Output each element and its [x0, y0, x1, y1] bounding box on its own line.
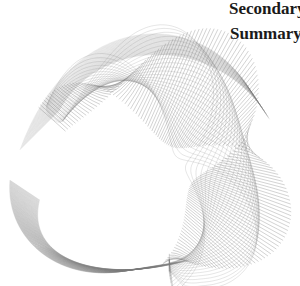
summary-label: Summary [230, 25, 300, 42]
canvas: Secondary Summary [0, 0, 300, 286]
secondary-label: Secondary [229, 0, 300, 17]
